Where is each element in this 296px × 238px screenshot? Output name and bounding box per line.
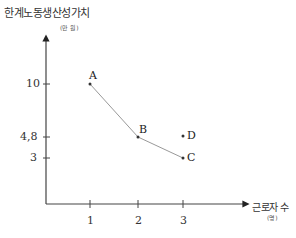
y-tick-10: 10 (26, 77, 40, 90)
x-tick-3: 3 (180, 214, 187, 227)
point-label-b: B (139, 123, 147, 136)
point-label-c: C (187, 151, 195, 164)
y-tick-4-8: 4,8 (20, 130, 38, 143)
y-axis-unit: (만 원) (60, 23, 79, 32)
x-tick-2: 2 (135, 214, 142, 227)
point-label-d: D (187, 129, 196, 142)
x-tick-1: 1 (87, 214, 94, 227)
y-tick-3: 3 (30, 151, 37, 164)
y-axis-label: 한계노동생산성가치 (4, 4, 90, 20)
point-label-a: A (89, 69, 97, 82)
data-line (90, 84, 183, 158)
x-axis-label: 근로자 수 (252, 199, 289, 214)
x-axis-unit: (명) (267, 213, 278, 222)
